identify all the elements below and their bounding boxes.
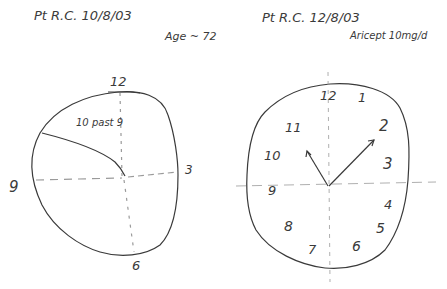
left-clock-hand	[42, 133, 125, 176]
right-numeral-2: 2	[379, 117, 389, 135]
left-numeral-6: 6	[132, 258, 140, 273]
right-numeral-1: 1	[358, 90, 366, 105]
right-numeral-12: 12	[320, 88, 337, 103]
left-guide-horizontal-right	[128, 172, 178, 177]
right-numeral-3: 3	[383, 155, 393, 173]
clock-drawings-svg	[0, 0, 447, 289]
right-medication: Aricept 10mg/d	[350, 30, 427, 41]
right-guide-vertical	[328, 72, 330, 282]
right-numeral-10: 10	[264, 148, 281, 163]
left-header: Pt R.C. 10/8/03	[34, 8, 132, 23]
right-numeral-7: 7	[308, 242, 316, 257]
left-age: Age ~ 72	[165, 30, 216, 43]
left-guide-vertical-bottom	[124, 180, 134, 252]
right-numeral-11: 11	[285, 120, 302, 135]
right-header: Pt R.C. 12/8/03	[262, 10, 360, 25]
right-numeral-4: 4	[384, 197, 392, 212]
right-numeral-6: 6	[352, 238, 361, 254]
right-hour-hand	[307, 151, 328, 186]
left-numeral-9: 9	[9, 178, 19, 196]
left-numeral-12: 12	[110, 74, 127, 89]
right-guide-horizontal	[236, 182, 436, 186]
right-numeral-8: 8	[284, 218, 293, 234]
left-guide-horizontal-left	[36, 178, 122, 180]
right-numeral-9: 9	[268, 183, 276, 198]
scanned-clock-drawings: Pt R.C. 10/8/03 Age ~ 72 10 past 9 12 3 …	[0, 0, 447, 289]
right-clock	[236, 72, 436, 282]
left-guide-vertical-top	[120, 93, 122, 176]
right-numeral-5: 5	[376, 220, 385, 236]
right-minute-hand	[329, 140, 374, 186]
right-clock-outline	[247, 84, 409, 269]
left-numeral-3: 3	[185, 163, 193, 177]
left-annotation: 10 past 9	[76, 117, 123, 128]
